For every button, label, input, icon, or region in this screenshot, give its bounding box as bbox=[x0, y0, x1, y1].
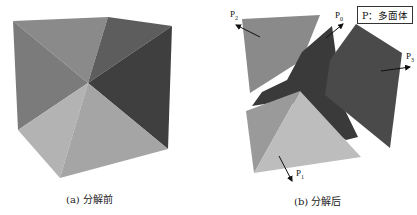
figure-canvas bbox=[0, 0, 417, 215]
label-p1: P1 bbox=[296, 168, 304, 180]
label-p3: P3 bbox=[406, 51, 414, 63]
caption-a: (a) 分解前 bbox=[66, 191, 113, 206]
cube-before bbox=[13, 17, 172, 178]
label-p2: P2 bbox=[230, 9, 238, 21]
legend-box: P：多面体 bbox=[357, 6, 413, 24]
caption-b: (b) 分解后 bbox=[294, 193, 341, 208]
cube-after bbox=[236, 15, 410, 181]
label-p0: P0 bbox=[335, 10, 343, 22]
